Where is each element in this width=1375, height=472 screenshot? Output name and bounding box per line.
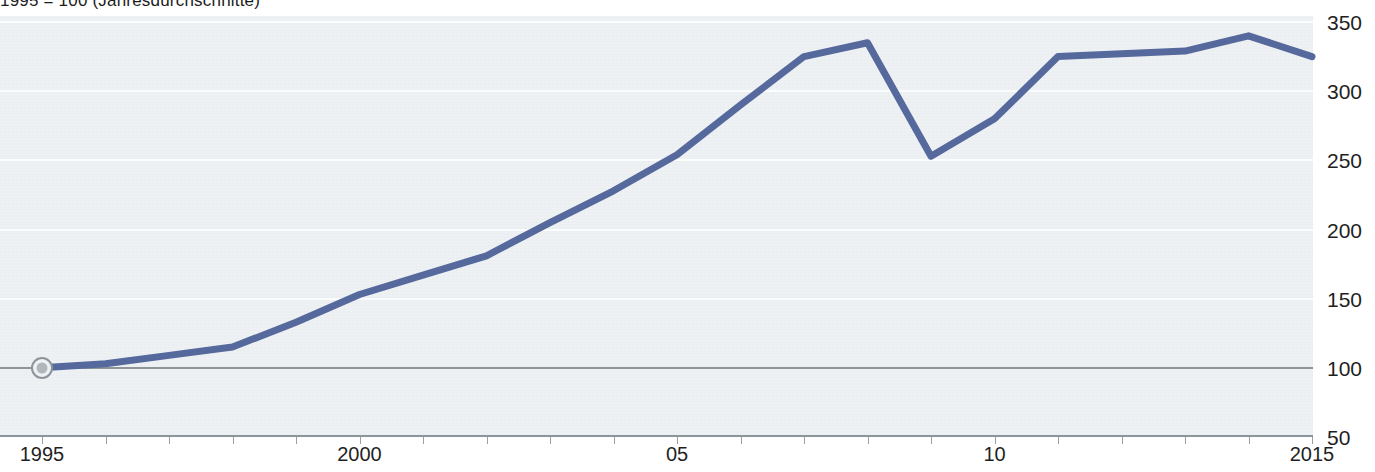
x-tick-mark-2009	[931, 437, 932, 444]
x-tick-mark-1996	[106, 437, 107, 444]
x-tick-label-1995: 1995	[20, 444, 65, 464]
x-tick-mark-1995	[42, 437, 43, 444]
y-tick-label-250: 250	[1327, 150, 1373, 171]
gridline-350	[0, 21, 1313, 23]
x-tick-mark-2007	[804, 437, 805, 444]
paper-texture	[0, 16, 1313, 437]
x-tick-mark-2008	[868, 437, 869, 444]
x-tick-mark-2013	[1185, 437, 1186, 444]
x-tick-mark-2004	[614, 437, 615, 444]
y-tick-label-150: 150	[1327, 288, 1373, 309]
x-tick-mark-2011	[1058, 437, 1059, 444]
x-axis-line	[0, 435, 1313, 437]
x-tick-label-2015: 2015	[1290, 444, 1335, 464]
y-tick-label-350: 350	[1327, 12, 1373, 33]
x-tick-label-2005: 05	[666, 444, 688, 464]
gridline-300	[0, 90, 1313, 92]
start-point-marker-dot	[37, 362, 48, 373]
x-tick-mark-2001	[423, 437, 424, 444]
chart-page: 1995 = 100 (Jahresdurchschnitte) 3503002…	[0, 0, 1375, 472]
gridline-150	[0, 298, 1313, 300]
y-tick-label-100: 100	[1327, 357, 1373, 378]
x-tick-mark-2003	[550, 437, 551, 444]
x-tick-mark-2010	[995, 437, 996, 444]
x-tick-mark-2000	[360, 437, 361, 444]
x-tick-mark-2005	[677, 437, 678, 444]
x-tick-mark-1998	[233, 437, 234, 444]
x-tick-mark-2014	[1249, 437, 1250, 444]
y-tick-label-200: 200	[1327, 219, 1373, 240]
chart-title: 1995 = 100 (Jahresdurchschnitte)	[0, 0, 640, 13]
gridline-250	[0, 159, 1313, 161]
x-tick-mark-2015	[1312, 437, 1313, 444]
x-tick-label-2000: 2000	[337, 444, 382, 464]
gridline-100	[0, 367, 1313, 369]
x-tick-mark-2002	[487, 437, 488, 444]
x-tick-mark-2006	[741, 437, 742, 444]
x-tick-label-2010: 10	[983, 444, 1005, 464]
plot-area	[0, 16, 1313, 437]
y-tick-label-300: 300	[1327, 81, 1373, 102]
x-tick-mark-1999	[296, 437, 297, 444]
x-tick-mark-1997	[169, 437, 170, 444]
gridline-200	[0, 229, 1313, 231]
x-tick-mark-2012	[1122, 437, 1123, 444]
